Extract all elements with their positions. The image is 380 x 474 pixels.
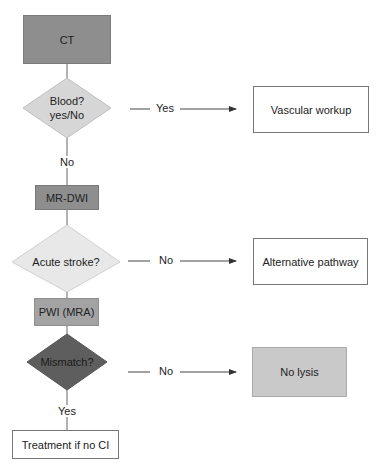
- pwi-mra-box: PWI (MRA): [34, 298, 99, 326]
- connector-lines: [0, 0, 380, 474]
- ct-label: CT: [60, 34, 75, 46]
- alternative-pathway-box: Alternative pathway: [253, 238, 368, 285]
- vascular-label: Vascular workup: [271, 104, 352, 116]
- no-lysis-box: No lysis: [252, 347, 347, 397]
- acute-label: Acute stroke?: [32, 255, 99, 269]
- mismatch-question: Mismatch?: [27, 352, 107, 372]
- edge-label-mismatch-yes: Yes: [56, 405, 78, 417]
- vascular-workup-box: Vascular workup: [253, 86, 369, 133]
- edge-label-blood-no: No: [58, 156, 76, 168]
- mismatch-label: Mismatch?: [40, 355, 93, 369]
- ct-box: CT: [23, 15, 111, 64]
- edge-label-acute-no: No: [157, 254, 175, 266]
- pwi-label: PWI (MRA): [39, 306, 95, 318]
- blood-label-line1: Blood?: [50, 94, 84, 108]
- treatment-label: Treatment if no CI: [22, 439, 110, 451]
- alternative-label: Alternative pathway: [263, 256, 359, 268]
- edge-label-mismatch-no: No: [157, 365, 175, 377]
- blood-label-line2: yes/No: [50, 108, 84, 122]
- no-lysis-label: No lysis: [280, 366, 319, 378]
- mr-dwi-label: MR-DWI: [46, 192, 88, 204]
- acute-stroke-question: Acute stroke?: [12, 252, 120, 272]
- mr-dwi-box: MR-DWI: [35, 185, 99, 210]
- edge-label-blood-yes: Yes: [154, 102, 176, 114]
- blood-question: Blood? yes/No: [23, 92, 111, 124]
- treatment-box: Treatment if no CI: [12, 430, 119, 459]
